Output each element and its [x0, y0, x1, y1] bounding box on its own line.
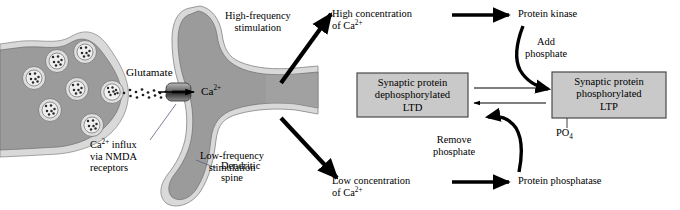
protein-kinase-label: Protein kinase: [518, 8, 577, 20]
low-concentration-label: Low concentrationof Ca2+: [332, 175, 410, 198]
high-frequency-label: High-frequencystimulation: [225, 10, 291, 33]
phosphate-group-label: PO4: [556, 127, 573, 139]
calcium-ion-label: Ca2+: [201, 85, 221, 98]
low-frequency-arrow: [281, 118, 337, 178]
add-phosphate-label: Addphosphate: [525, 36, 567, 59]
diagram-canvas: Glutamate Ca2+ Ca2+ influxvia NMDArecept…: [0, 0, 680, 210]
ca-influx-annotation: Ca2+ influxvia NMDAreceptors: [90, 139, 137, 174]
leader-ca-influx: [150, 104, 176, 140]
ltp-box-text: Synaptic proteinphosphorylatedLTP: [552, 76, 666, 113]
low-frequency-label: Low-frequencystimulation: [200, 150, 264, 173]
fusing-vesicle: [101, 81, 124, 104]
ltd-box-text: Synaptic proteindephosphorylatedLTD: [357, 77, 468, 114]
remove-phosphate-label: Removephosphate: [433, 134, 475, 157]
protein-phosphatase-label: Protein phosphatase: [518, 175, 601, 187]
remove-phosphate-arrow: [488, 116, 521, 172]
high-concentration-label: High concentrationof Ca2+: [332, 8, 412, 31]
glutamate-label: Glutamate: [126, 66, 173, 79]
